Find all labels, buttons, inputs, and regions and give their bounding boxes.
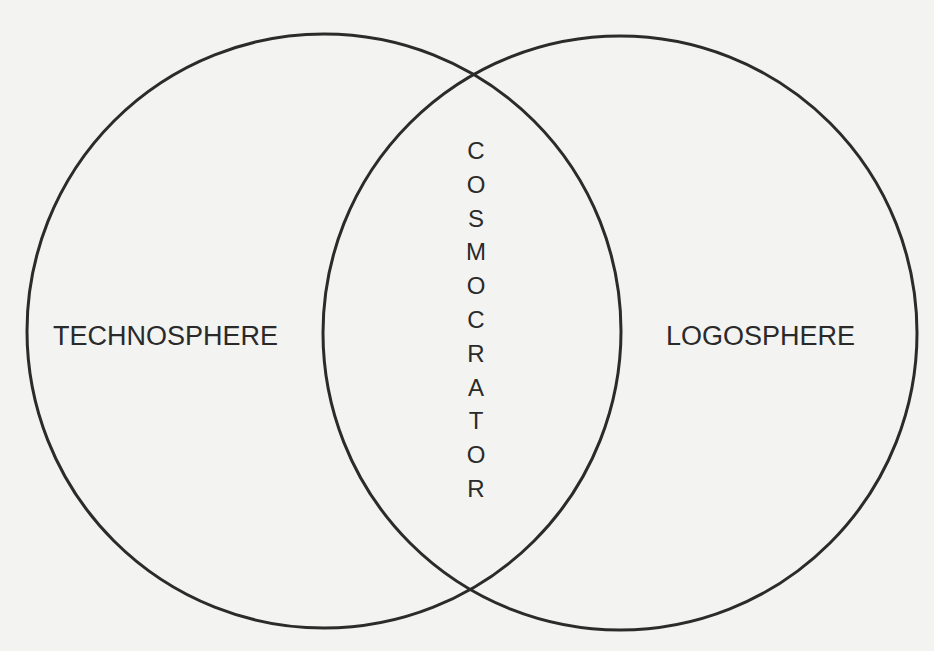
letter: C bbox=[467, 137, 484, 171]
letter: O bbox=[467, 272, 486, 306]
letter: C bbox=[467, 306, 484, 340]
venn-diagram: TECHNOSPHERE LOGOSPHERE C O S M O C R A … bbox=[0, 0, 934, 651]
letter: A bbox=[468, 374, 484, 408]
letter: O bbox=[467, 171, 486, 205]
letter: T bbox=[469, 407, 484, 441]
letter: S bbox=[468, 205, 484, 239]
cosmocrator-label: C O S M O C R A T O R bbox=[463, 137, 489, 509]
letter: R bbox=[467, 475, 484, 509]
technosphere-label: TECHNOSPHERE bbox=[53, 321, 278, 352]
letter: M bbox=[466, 238, 486, 272]
letter: R bbox=[467, 340, 484, 374]
logosphere-label: LOGOSPHERE bbox=[666, 321, 855, 352]
letter: O bbox=[467, 441, 486, 475]
